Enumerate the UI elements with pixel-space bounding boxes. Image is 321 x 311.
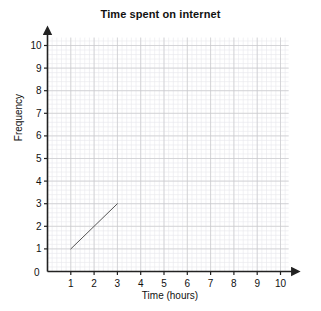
y-tick-label: 1: [36, 243, 42, 254]
x-tick-label: 1: [68, 278, 74, 289]
y-tick-label: 6: [36, 130, 42, 141]
x-tick-label: 5: [161, 278, 167, 289]
y-tick-label: 10: [30, 40, 42, 51]
x-tick-label: 7: [208, 278, 214, 289]
chart-container: Time spent on internet 012345678910 1234…: [0, 0, 321, 311]
x-tick-label: 8: [231, 278, 237, 289]
y-tick-label: 8: [36, 85, 42, 96]
x-axis-title: Time (hours): [45, 290, 295, 301]
y-axis-title: Frequency: [13, 78, 24, 158]
y-tick-label: 2: [36, 221, 42, 232]
x-axis-tick-labels: 012345678910: [34, 267, 287, 289]
plot-area: 012345678910 12345678910: [0, 0, 321, 311]
y-tick-label: 5: [36, 153, 42, 164]
y-axis-tick-labels: 12345678910: [30, 40, 42, 254]
x-tick-label: 9: [254, 278, 260, 289]
y-tick-label: 4: [36, 176, 42, 187]
y-tick-label: 3: [36, 198, 42, 209]
x-tick-label: 3: [115, 278, 121, 289]
x-tick-label: 10: [275, 278, 287, 289]
x-tick-label: 4: [138, 278, 144, 289]
y-tick-label: 7: [36, 108, 42, 119]
y-tick-label: 9: [36, 63, 42, 74]
x-tick-label: 0: [34, 267, 40, 278]
x-tick-label: 6: [185, 278, 191, 289]
x-tick-label: 2: [91, 278, 97, 289]
